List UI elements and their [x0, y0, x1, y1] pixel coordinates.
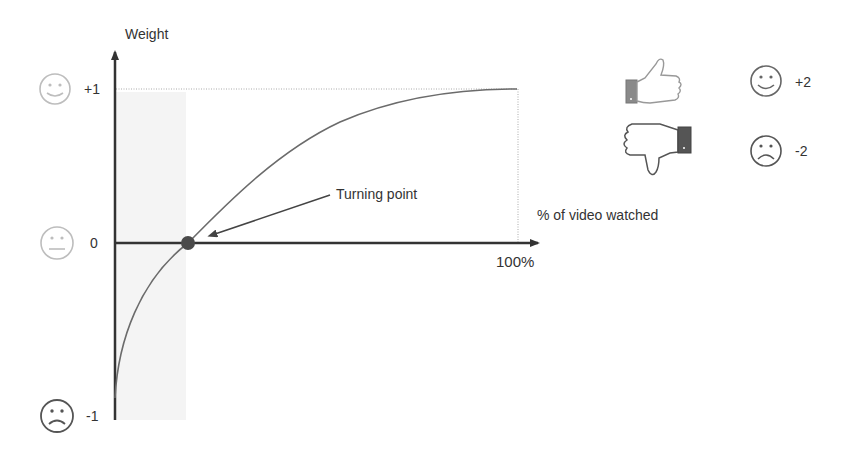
- thumbs-down-icon: [624, 124, 691, 175]
- turning-point-arrow: [215, 195, 330, 234]
- thumbs-up-icon: [626, 59, 681, 103]
- sad-face-icon: [41, 400, 73, 432]
- y-tick-minus-one: -1: [86, 408, 98, 424]
- happy-face-icon: [40, 74, 70, 104]
- thumbs-up-score: +2: [795, 74, 811, 90]
- legend-sad-face-icon: [751, 136, 781, 166]
- neutral-face-icon: [41, 227, 73, 259]
- y-tick-plus-one: +1: [84, 81, 100, 97]
- turning-point-label: Turning point: [336, 186, 417, 202]
- diagram-canvas: [0, 0, 854, 456]
- x-axis-label: % of video watched: [537, 207, 658, 223]
- thumbs-down-score: -2: [795, 143, 807, 159]
- y-axis-label: Weight: [125, 26, 168, 42]
- shaded-region: [116, 92, 186, 420]
- turning-point-dot: [181, 236, 195, 250]
- y-tick-zero: 0: [90, 235, 98, 251]
- x-tick-hundred: 100%: [496, 253, 534, 270]
- legend-happy-face-icon: [751, 66, 781, 96]
